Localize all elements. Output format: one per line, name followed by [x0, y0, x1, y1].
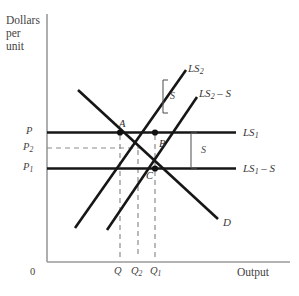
- x-axis-title: Output: [237, 266, 269, 279]
- y-axis-title-line-3: unit: [6, 40, 40, 53]
- x-tick-label-q1: Q1: [150, 265, 161, 278]
- x-tick-label-q2-base: Q: [131, 265, 139, 276]
- curve-label-ls2-minus-s-suffix: – S: [215, 87, 232, 99]
- y-axis-title: Dollars per unit: [6, 14, 40, 53]
- point-label-a: A: [119, 118, 125, 130]
- point-marker-b: [152, 129, 158, 135]
- diagram-canvas: [0, 0, 299, 296]
- curve-label-demand: D: [223, 216, 231, 228]
- y-axis-title-line-1: Dollars: [6, 14, 40, 27]
- point-label-c: C: [146, 170, 153, 182]
- x-tick-label-q1-sub: 1: [158, 269, 162, 278]
- curve-label-ls1-minus-s: LS1 – S: [243, 162, 275, 177]
- curve-label-ls2-sub: 2: [200, 67, 204, 76]
- curve-label-ls1-minus-s-base: LS: [243, 162, 255, 174]
- point-label-b: B: [159, 138, 165, 150]
- curve-label-ls1-minus-s-suffix: – S: [259, 162, 276, 174]
- curve-label-ls1-sub: 1: [255, 131, 259, 140]
- curve-label-ls1-base: LS: [243, 126, 255, 138]
- supply-demand-figure: Dollars per unit Output 0 P P2 P1 Q Q2 Q…: [0, 0, 299, 296]
- x-tick-label-q: Q: [114, 265, 122, 277]
- curve-label-ls2: LS2: [188, 62, 204, 77]
- curve-label-ls2-minus-s: LS2 – S: [199, 87, 231, 102]
- y-tick-label-p: P: [26, 125, 32, 137]
- curve-demand: [78, 90, 218, 219]
- x-tick-label-q1-base: Q: [150, 265, 158, 276]
- y-tick-label-p1-sub: 1: [29, 165, 33, 174]
- y-tick-label-p2-sub: 2: [29, 145, 33, 154]
- curve-label-ls1: LS1: [243, 126, 259, 141]
- y-tick-label-p1: P1: [23, 161, 33, 174]
- curve-label-ls2-minus-s-base: LS: [199, 87, 211, 99]
- x-tick-label-q2: Q2: [131, 265, 142, 278]
- bracket-label-upper-s: S: [170, 90, 175, 101]
- point-marker-a: [117, 129, 123, 135]
- origin-label: 0: [30, 266, 35, 278]
- curve-label-ls2-base: LS: [188, 62, 200, 74]
- bracket-label-lower-s: S: [201, 144, 206, 155]
- x-tick-label-q2-sub: 2: [139, 269, 143, 278]
- y-axis-title-line-2: per: [6, 27, 40, 40]
- y-tick-label-p2: P2: [23, 141, 33, 154]
